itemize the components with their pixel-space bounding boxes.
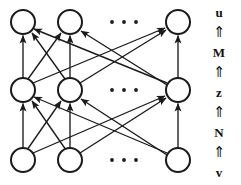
up-arrow-icon-z: ⇑ bbox=[213, 65, 226, 80]
ellipsis-dot bbox=[110, 158, 114, 162]
edges-input-to-hidden bbox=[23, 96, 178, 155]
node-uN bbox=[166, 10, 190, 34]
ellipsis-input-layer bbox=[110, 158, 138, 162]
network-diagram-figure: u ⇑ M ⇑ z ⇑ N ⇑ v bbox=[0, 0, 241, 185]
variable-label-column: u ⇑ M ⇑ z ⇑ N ⇑ v bbox=[199, 0, 239, 185]
label-v: v bbox=[216, 166, 223, 179]
up-arrow-icon-n: ⇑ bbox=[213, 105, 226, 120]
ellipsis-dot bbox=[134, 20, 138, 24]
edges-hidden-to-output bbox=[23, 28, 178, 85]
ellipsis-dot bbox=[134, 158, 138, 162]
label-z: z bbox=[216, 86, 222, 99]
node-zN bbox=[166, 78, 190, 102]
ellipsis-dot bbox=[110, 88, 114, 92]
label-u: u bbox=[215, 6, 222, 19]
ellipsis-dot bbox=[122, 158, 126, 162]
node-z1 bbox=[11, 78, 35, 102]
ellipsis-hidden-layer bbox=[110, 88, 138, 92]
ellipsis-output-layer bbox=[110, 20, 138, 24]
ellipsis-dot bbox=[122, 20, 126, 24]
ellipsis-dot bbox=[122, 88, 126, 92]
node-v2 bbox=[58, 148, 82, 172]
up-arrow-icon-v: ⇑ bbox=[213, 145, 226, 160]
ellipsis-dot bbox=[110, 20, 114, 24]
node-u1 bbox=[11, 10, 35, 34]
node-u2 bbox=[58, 10, 82, 34]
ellipsis-dot bbox=[134, 88, 138, 92]
up-arrow-icon-m: ⇑ bbox=[213, 25, 226, 40]
node-z2 bbox=[58, 78, 82, 102]
edge-z1-u2 bbox=[28, 33, 61, 79]
edge-v1-z2 bbox=[28, 101, 61, 149]
node-v1 bbox=[11, 148, 35, 172]
node-vN bbox=[166, 148, 190, 172]
label-N: N bbox=[214, 126, 223, 139]
label-M: M bbox=[213, 46, 225, 59]
